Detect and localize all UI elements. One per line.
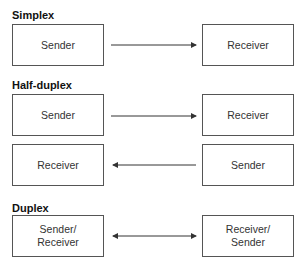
arrows-layer — [0, 0, 306, 270]
